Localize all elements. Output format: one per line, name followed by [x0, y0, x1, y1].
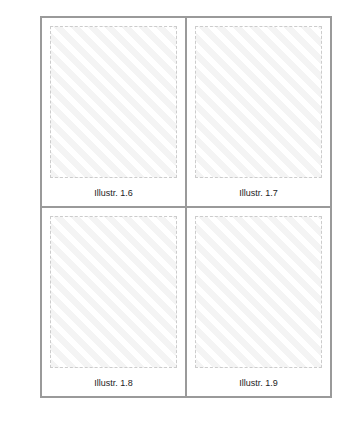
figure-grid: Illustr. 1.6 Illustr. 1.7 Illustr. 1.8 I… [40, 16, 332, 398]
illustration-placeholder [50, 26, 177, 178]
figure-panel: Illustr. 1.9 [186, 207, 331, 397]
figure-panel: Illustr. 1.8 [41, 207, 186, 397]
figure-caption: Illustr. 1.8 [42, 378, 185, 388]
figure-panel: Illustr. 1.6 [41, 17, 186, 207]
figure-panel: Illustr. 1.7 [186, 17, 331, 207]
illustration-placeholder [195, 216, 322, 368]
figure-caption: Illustr. 1.6 [42, 188, 185, 198]
figure-caption: Illustr. 1.7 [187, 188, 330, 198]
illustration-placeholder [50, 216, 177, 368]
figure-caption: Illustr. 1.9 [187, 378, 330, 388]
illustration-placeholder [195, 26, 322, 178]
